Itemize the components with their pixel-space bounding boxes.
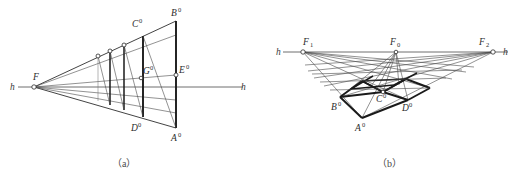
node-g0 [139,76,143,80]
label-f: F [32,72,39,82]
label-c0-sup: 0 [139,17,142,24]
edge-d0-right [408,88,430,100]
label-f0: F [389,37,396,47]
label-a0-b-sup: 0 [362,121,365,128]
ray-f-to-a0 [34,87,176,128]
label-g0: G [143,66,150,76]
horizon-label-b-right: h [503,47,508,57]
node-upper-2 [108,49,112,53]
label-a0-a-sup: 0 [178,131,181,138]
aux-cross-2 [320,78,446,82]
ray-f-aux-3 [34,87,176,113]
label-d0-b: D [401,103,409,113]
label-f1: F [302,37,309,47]
label-a0-a: A [170,133,177,143]
panel-a-group: h h F B 0 C 0 G 0 E 0 D 0 A 0 （a） [10,6,246,169]
label-f1-sub: 1 [310,41,313,48]
ray-f0-d0 [396,52,408,100]
label-c0: C [132,19,139,29]
label-a0-b: A [354,123,361,133]
edge-c0-d0 [383,92,408,100]
ray-f-aux-1 [34,35,176,87]
label-d0-sup: 0 [138,121,141,128]
horizon-label-a-left: h [10,82,15,92]
horizon-label-b-left: h [276,47,281,57]
diagonal-cell-3 [124,45,143,117]
label-c0-b-sup: 0 [383,92,386,99]
node-upper-1 [96,54,100,58]
label-e0: E [178,65,185,75]
label-d0: D [130,123,138,133]
label-g0-sup: 0 [150,64,153,71]
label-c0-b: C [376,94,383,104]
label-b0-sup: 0 [178,6,181,13]
node-f2 [491,50,495,54]
caption-a: （a） [112,158,136,169]
vanishing-point-f-marker [32,85,36,89]
edge-a0-b0-b [340,97,362,118]
caption-b: （b） [377,158,402,169]
label-e0-sup: 0 [186,63,189,70]
panel-a-and-b-svg: h h F B 0 C 0 G 0 E 0 D 0 A 0 （a） [0,0,521,182]
label-d0-b-sup: 0 [409,101,412,108]
horizon-label-a-right: h [241,82,246,92]
label-b0: B [171,8,177,18]
panel-b-group: h h F 1 F 0 F 2 B 0 C 0 D 0 A 0 （b） [276,37,508,169]
node-upper-3 [122,43,126,47]
label-f2: F [478,37,485,47]
ray-f2-aux2 [314,52,493,78]
node-f1 [301,50,305,54]
label-b0-b-sup: 0 [338,100,341,107]
diagonal-cell-4 [143,36,176,128]
label-f0-sub: 0 [397,41,400,48]
node-f0 [394,50,398,54]
edge-right-upper [406,79,430,88]
node-e0 [174,73,178,77]
figure-page: h h F B 0 C 0 G 0 E 0 D 0 A 0 （a） [0,0,521,182]
label-f2-sub: 2 [486,41,489,48]
label-b0-b: B [331,102,337,112]
